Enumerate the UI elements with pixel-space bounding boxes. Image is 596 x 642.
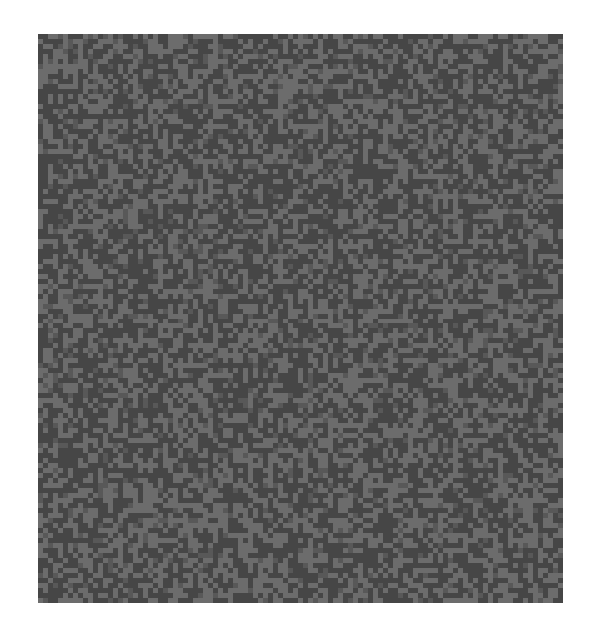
noise-texture (38, 34, 563, 603)
